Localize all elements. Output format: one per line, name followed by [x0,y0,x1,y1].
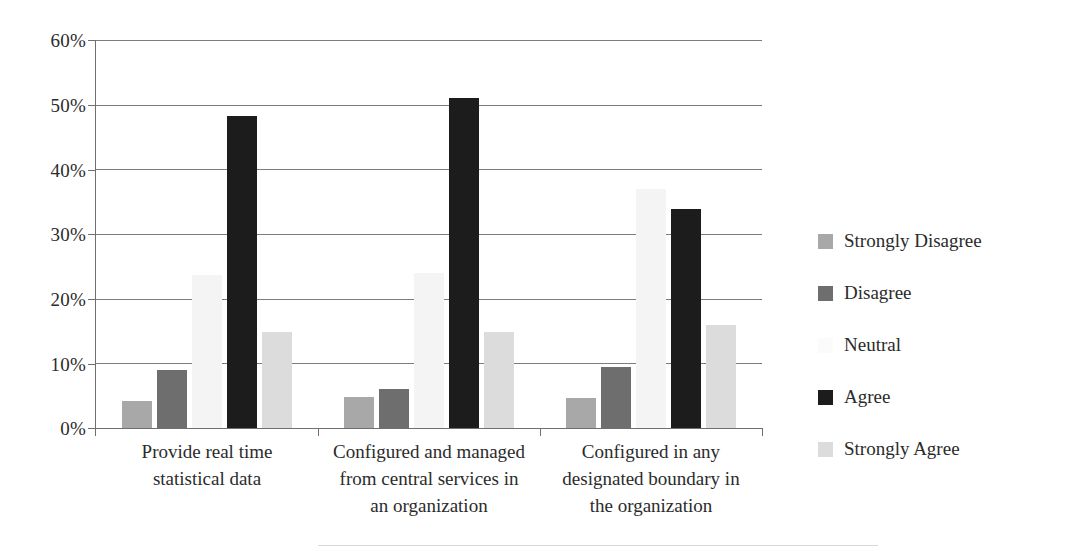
y-axis-tick [88,40,96,41]
y-tick-label-0: 0% [8,419,86,438]
x-axis-category-label: Configured and managedfrom central servi… [318,438,540,519]
x-axis-category-label: Provide real timestatistical data [96,438,318,492]
bar-neutral[interactable] [636,189,666,428]
y-axis-tick [88,234,96,235]
bar-agree[interactable] [227,116,257,428]
bar-strongly-agree[interactable] [706,325,736,428]
y-axis-labels: 60% 50% 40% 30% 20% 10% 0% [0,0,86,552]
y-tick-label-30: 30% [8,225,86,244]
bar-agree[interactable] [449,98,479,428]
bar-group [318,40,540,428]
y-tick-label-50: 50% [8,96,86,115]
y-tick-label-10: 10% [8,355,86,374]
bar-group [540,40,762,428]
y-tick-label-60: 60% [8,31,86,50]
legend-label: Neutral [844,334,901,356]
bar-strongly-disagree[interactable] [122,401,152,428]
legend-label: Agree [844,386,890,408]
y-tick-label-40: 40% [8,161,86,180]
legend-swatch-icon [818,286,833,301]
bar-strongly-agree[interactable] [484,332,514,428]
legend-item-strongly-disagree[interactable]: Strongly Disagree [818,215,1058,267]
legend-swatch-icon [818,338,833,353]
chart-legend: Strongly DisagreeDisagreeNeutralAgreeStr… [818,215,1058,475]
x-axis-tick [762,428,763,436]
bar-strongly-agree[interactable] [262,332,292,428]
legend-swatch-icon [818,234,833,249]
x-axis-line [95,428,763,429]
x-axis-category-label: Configured in anydesignated boundary int… [540,438,762,519]
bar-group [96,40,318,428]
bar-strongly-disagree[interactable] [344,397,374,428]
bar-agree[interactable] [671,209,701,428]
bar-disagree[interactable] [157,370,187,428]
bar-neutral[interactable] [414,273,444,428]
bottom-divider [318,545,878,546]
legend-label: Strongly Agree [844,438,960,460]
x-axis-tick [95,428,96,436]
bar-neutral[interactable] [192,275,222,428]
legend-item-agree[interactable]: Agree [818,371,1058,423]
x-axis-tick [318,428,319,436]
x-axis-category-labels: Provide real timestatistical dataConfigu… [96,438,762,538]
legend-item-disagree[interactable]: Disagree [818,267,1058,319]
plot-area [96,40,762,428]
y-tick-label-20: 20% [8,290,86,309]
bar-disagree[interactable] [601,367,631,428]
legend-swatch-icon [818,390,833,405]
legend-item-neutral[interactable]: Neutral [818,319,1058,371]
y-axis-tick [88,299,96,300]
legend-label: Disagree [844,282,912,304]
bar-disagree[interactable] [379,389,409,428]
legend-item-strongly-agree[interactable]: Strongly Agree [818,423,1058,475]
legend-label: Strongly Disagree [844,230,982,252]
x-axis-tick [540,428,541,436]
legend-swatch-icon [818,442,833,457]
y-axis-tick [88,364,96,365]
y-axis-tick [88,105,96,106]
bar-chart: 60% 50% 40% 30% 20% 10% 0% Provide real … [0,0,1068,552]
bar-strongly-disagree[interactable] [566,398,596,428]
y-axis-tick [88,170,96,171]
